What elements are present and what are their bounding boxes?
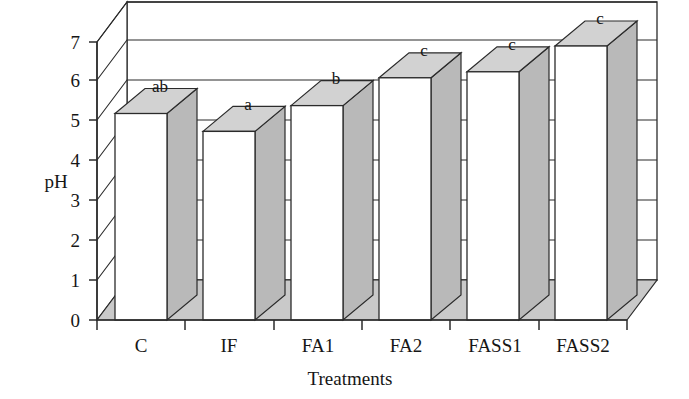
- bar-front-face: [467, 72, 519, 320]
- bar-front-face: [203, 131, 255, 320]
- y-tick-label: 1: [71, 270, 81, 291]
- y-axis: [89, 42, 97, 320]
- bar-side-face: [607, 21, 637, 320]
- y-tick-label: 3: [71, 190, 81, 211]
- y-tick-label: 5: [71, 110, 81, 131]
- significance-label: c: [420, 41, 428, 60]
- bar-group-fass2[interactable]: c: [555, 9, 637, 320]
- bar-group-fa1[interactable]: b: [291, 69, 373, 320]
- bar-side-face: [343, 81, 373, 320]
- bar-group-fass1[interactable]: c: [467, 35, 549, 320]
- bar-side-face: [519, 47, 549, 320]
- bar-side-face: [167, 89, 197, 321]
- bar-side-face: [255, 106, 285, 320]
- bar-group-c[interactable]: ab: [115, 77, 197, 320]
- x-axis-title: Treatments: [308, 368, 393, 389]
- bar-front-face: [379, 78, 431, 320]
- y-tick-label: 7: [71, 32, 81, 53]
- y-tick-label: 4: [71, 150, 81, 171]
- bar-front-face: [115, 114, 167, 321]
- y-tick-label: 0: [71, 310, 81, 331]
- bar-group-if[interactable]: a: [203, 95, 285, 320]
- x-tick-label-fass1: FASS1: [468, 335, 522, 356]
- x-axis: [97, 320, 627, 330]
- x-tick-label-c: C: [135, 335, 148, 356]
- bar-chart-figure: 0 1 2 3 4 5 6 7 pH ab a: [0, 0, 689, 399]
- bar-side-face: [431, 53, 461, 320]
- y-tick-label: 6: [71, 70, 81, 91]
- bar-front-face: [555, 46, 607, 320]
- bar-front-face: [291, 106, 343, 320]
- x-tick-label-fa2: FA2: [390, 335, 422, 356]
- y-tick-labels: 0 1 2 3 4 5 6 7: [71, 32, 81, 331]
- x-tick-label-fass2: FASS2: [556, 335, 610, 356]
- significance-label: ab: [152, 77, 168, 96]
- x-tick-label-if: IF: [221, 335, 238, 356]
- y-tick-label: 2: [71, 230, 81, 251]
- significance-label: c: [508, 35, 516, 54]
- chart-svg: 0 1 2 3 4 5 6 7 pH ab a: [0, 0, 689, 399]
- significance-label: b: [332, 69, 341, 88]
- x-tick-label-fa1: FA1: [302, 335, 334, 356]
- y-axis-title: pH: [44, 171, 68, 192]
- significance-label: c: [596, 9, 604, 28]
- bar-group-fa2[interactable]: c: [379, 41, 461, 320]
- significance-label: a: [244, 95, 252, 114]
- x-tick-labels: C IF FA1 FA2 FASS1 FASS2: [135, 335, 610, 356]
